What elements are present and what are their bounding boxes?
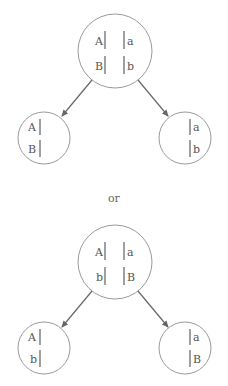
allele-label: b: [193, 143, 200, 156]
separator-or: or: [108, 192, 121, 205]
arrow-right: [138, 80, 168, 116]
daughter-cell-right-2: [159, 322, 211, 374]
daughter-cell-right-1: [159, 112, 211, 164]
allele-label: B: [95, 60, 103, 73]
diagram-1: A a B b A B a b: [18, 14, 211, 164]
allele-label: B: [193, 353, 201, 366]
allele-label: b: [30, 353, 37, 366]
daughter-cell-left-1: [18, 112, 70, 164]
daughter-cell-left-2: [18, 322, 70, 374]
allele-label: B: [28, 143, 36, 156]
arrow-left: [62, 291, 92, 327]
allele-label: a: [127, 35, 134, 48]
allele-label: A: [94, 246, 104, 259]
allele-label: b: [96, 271, 103, 284]
allele-label: A: [27, 331, 37, 344]
allele-label: A: [27, 121, 37, 134]
segregation-diagram: A a B b A B a b or A a b B A b: [0, 0, 228, 386]
allele-label: a: [193, 331, 200, 344]
allele-label: a: [193, 121, 200, 134]
allele-label: A: [94, 35, 104, 48]
allele-label: a: [127, 246, 134, 259]
allele-label: b: [127, 60, 134, 73]
parent-cell-2: [78, 225, 152, 299]
arrow-right: [138, 291, 168, 327]
arrow-left: [62, 80, 92, 116]
parent-cell-1: [78, 14, 152, 88]
allele-label: B: [127, 271, 135, 284]
diagram-2: A a b B A b a B: [18, 225, 211, 374]
